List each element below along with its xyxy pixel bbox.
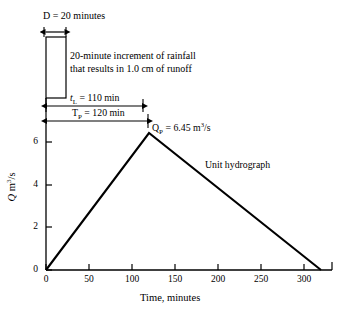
x-tick-label-300: 300 xyxy=(294,274,314,285)
duration-label: D = 20 minutes xyxy=(43,10,105,21)
hydrograph-plot-svg xyxy=(0,0,350,315)
y-axis-title-tail: /s xyxy=(6,173,17,180)
peak-flow-value: = 6.45 m xyxy=(163,122,201,133)
unit-hydrograph-figure: D = 20 minutes 20-minute increment of ra… xyxy=(0,0,350,315)
x-axis-ticks xyxy=(46,262,332,270)
rainfall-block-description: 20-minute increment of rainfall that res… xyxy=(70,50,196,75)
curve-label: Unit hydrograph xyxy=(205,160,270,171)
time-to-peak-value: = 120 min xyxy=(82,107,125,118)
y-axis-title: Q m3/s xyxy=(1,155,19,219)
lag-time-label: tL = 110 min xyxy=(70,93,120,107)
x-tick-label-0: 0 xyxy=(36,274,56,285)
y-axis-title-exponent: 3 xyxy=(5,180,13,184)
y-axis-title-symbol: Q xyxy=(6,194,17,202)
y-axis-ticks xyxy=(46,142,52,270)
lag-time-value: = 110 min xyxy=(77,92,119,103)
rainfall-block-description-line1: 20-minute increment of rainfall xyxy=(70,50,196,63)
x-axis-title: Time, minutes xyxy=(140,292,200,304)
x-tick-label-200: 200 xyxy=(208,274,228,285)
x-tick-label-50: 50 xyxy=(79,274,99,285)
y-tick-label-6: 6 xyxy=(22,136,38,147)
x-tick-label-150: 150 xyxy=(165,274,185,285)
y-axis-title-unit: m xyxy=(6,183,17,194)
x-tick-label-250: 250 xyxy=(251,274,271,285)
peak-flow-unit: /s xyxy=(204,122,211,133)
time-to-peak-label: TP = 120 min xyxy=(72,108,125,122)
y-tick-label-4: 4 xyxy=(22,179,38,190)
rainfall-block-description-line2: that results in 1.0 cm of runoff xyxy=(70,63,196,76)
x-tick-label-100: 100 xyxy=(122,274,142,285)
peak-flow-label: QP = 6.45 m3/s xyxy=(152,121,211,137)
unit-hydrograph-curve xyxy=(46,133,321,270)
duration-dimension-arrow xyxy=(44,27,66,37)
y-tick-label-2: 2 xyxy=(22,221,38,232)
rainfall-block-rect xyxy=(46,37,66,98)
